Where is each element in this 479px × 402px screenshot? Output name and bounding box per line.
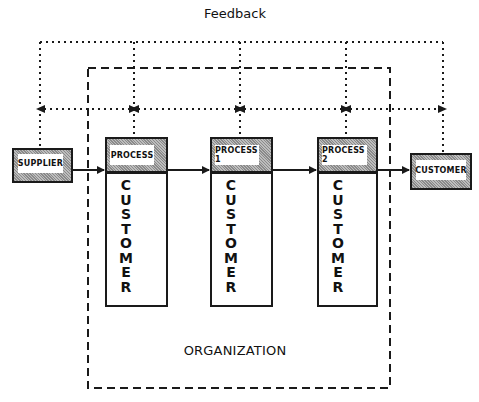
customer-column-2: CUSTOMER <box>317 171 378 307</box>
customer-box: CUSTOMER <box>410 153 472 190</box>
process-1-label: PROCESS 1 <box>215 145 259 165</box>
customer-vertical-label: CUSTOMER <box>117 178 135 294</box>
feedback-title: Feedback <box>185 6 285 21</box>
process-2-box: PROCESS 2 <box>317 137 378 173</box>
process-2-label: PROCESS 2 <box>322 145 367 165</box>
supplier-box: SUPPLIER <box>12 148 73 183</box>
process-label: PROCESS <box>110 145 154 165</box>
customer-label: CUSTOMER <box>416 160 466 180</box>
process-box: PROCESS <box>105 137 168 173</box>
process-1-box: PROCESS 1 <box>210 137 273 173</box>
supplier-label: SUPPLIER <box>18 154 63 173</box>
customer-vertical-label: CUSTOMER <box>329 178 347 294</box>
customer-column-1: CUSTOMER <box>210 171 273 307</box>
organization-label: ORGANIZATION <box>160 343 310 358</box>
customer-vertical-label: CUSTOMER <box>222 178 240 294</box>
customer-column: CUSTOMER <box>105 171 168 307</box>
